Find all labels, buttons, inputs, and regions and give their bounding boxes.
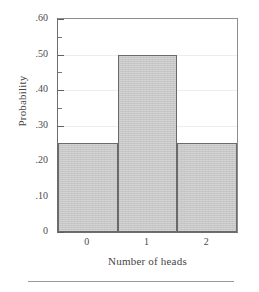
y-tick-label: .50 bbox=[24, 49, 48, 59]
y-axis-tick-labels: .60.50.40.30.20.100 bbox=[24, 15, 48, 233]
x-tick-label: 2 bbox=[186, 236, 226, 247]
probability-histogram-figure: Probability .60.50.40.30.20.100 012 Numb… bbox=[0, 0, 259, 292]
page-separator-rule bbox=[28, 281, 234, 282]
plot-area bbox=[57, 18, 238, 233]
y-tick-label: .40 bbox=[24, 84, 48, 94]
x-axis-title: Number of heads bbox=[57, 255, 238, 267]
bar-0 bbox=[58, 143, 118, 232]
y-tick-label: .10 bbox=[24, 191, 48, 201]
y-axis-major-tick bbox=[58, 55, 64, 56]
y-tick-label: 0 bbox=[24, 226, 48, 236]
y-axis-major-tick bbox=[58, 19, 64, 20]
y-axis-minor-tick bbox=[58, 37, 62, 38]
y-axis-minor-tick bbox=[58, 108, 62, 109]
x-tick-label: 1 bbox=[127, 236, 167, 247]
x-axis-tick-labels: 012 bbox=[57, 236, 238, 250]
bar-2 bbox=[177, 143, 237, 232]
y-axis-minor-tick bbox=[58, 72, 62, 73]
y-axis-major-tick bbox=[58, 90, 64, 91]
y-axis-major-tick bbox=[58, 126, 64, 127]
y-tick-label: .30 bbox=[24, 120, 48, 130]
bar-1 bbox=[118, 55, 178, 233]
y-tick-label: .20 bbox=[24, 155, 48, 165]
y-tick-label: .60 bbox=[24, 13, 48, 23]
y-axis-major-tick bbox=[58, 232, 64, 233]
x-tick-label: 0 bbox=[67, 236, 107, 247]
